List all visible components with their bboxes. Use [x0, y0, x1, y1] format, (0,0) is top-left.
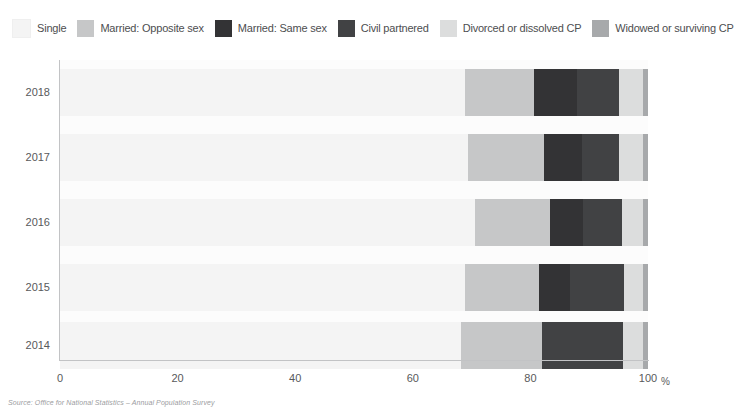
bar-segment — [619, 69, 643, 116]
y-axis-line — [59, 60, 60, 361]
bar-row-2014 — [60, 322, 648, 369]
bar-segment — [475, 199, 550, 246]
chart-legend: Single Married: Opposite sex Married: Sa… — [0, 16, 685, 40]
bar-segment — [534, 69, 577, 116]
legend-label-single: Single — [37, 23, 66, 34]
bar-segment — [60, 264, 465, 311]
legend-swatch-widowed-or-surviving-cp — [592, 20, 609, 37]
x-axis-line — [59, 360, 649, 361]
legend-item-married-same-sex: Married: Same sex — [215, 20, 327, 37]
legend-swatch-married-same-sex — [215, 20, 232, 37]
source-note: Source: Office for National Statistics –… — [8, 399, 215, 406]
y-tick-2016: 2016 — [0, 216, 50, 228]
legend-item-single: Single — [12, 19, 66, 38]
bar-row-2017 — [60, 134, 648, 181]
x-tick-60: 60 — [407, 372, 419, 384]
y-tick-2015: 2015 — [0, 281, 50, 293]
bar-segment — [577, 69, 619, 116]
bar-segment — [60, 322, 461, 369]
bar-segment — [461, 322, 542, 369]
legend-swatch-divorced-or-dissolved-cp — [440, 20, 457, 37]
bar-segment — [465, 69, 534, 116]
legend-label-civil-partnered: Civil partnered — [361, 23, 429, 34]
bar-segment — [544, 134, 582, 181]
bar-segment — [643, 322, 648, 369]
y-tick-2017: 2017 — [0, 151, 50, 163]
x-axis-unit-label: % — [661, 376, 670, 387]
bar-row-2018 — [60, 69, 648, 116]
x-tick-0: 0 — [57, 372, 63, 384]
bar-segment — [624, 264, 643, 311]
x-tick-100: 100 — [639, 372, 657, 384]
bar-segment — [60, 134, 468, 181]
bar-segment — [643, 134, 648, 181]
bar-segment — [539, 264, 570, 311]
bar-segment — [468, 134, 544, 181]
legend-label-divorced-or-dissolved-cp: Divorced or dissolved CP — [463, 23, 582, 34]
legend-item-divorced-or-dissolved-cp: Divorced or dissolved CP — [440, 20, 582, 37]
bar-segment — [550, 199, 583, 246]
legend-swatch-civil-partnered — [338, 20, 355, 37]
legend-label-widowed-or-surviving-cp: Widowed or surviving CP — [615, 23, 733, 34]
y-tick-2014: 2014 — [0, 339, 50, 351]
chart-plot-area — [60, 60, 648, 360]
legend-item-widowed-or-surviving-cp: Widowed or surviving CP — [592, 20, 733, 37]
y-tick-2018: 2018 — [0, 86, 50, 98]
legend-label-married-same-sex: Married: Same sex — [238, 23, 327, 34]
legend-swatch-married-opposite-sex — [77, 20, 94, 37]
bar-segment — [643, 199, 648, 246]
bar-segment — [60, 69, 465, 116]
bar-row-2015 — [60, 264, 648, 311]
bar-segment — [619, 134, 643, 181]
bar-segment — [582, 134, 619, 181]
x-tick-20: 20 — [171, 372, 183, 384]
bar-segment — [570, 264, 624, 311]
legend-swatch-single — [12, 19, 31, 38]
legend-item-civil-partnered: Civil partnered — [338, 20, 429, 37]
bar-segment — [583, 199, 622, 246]
legend-item-married-opposite-sex: Married: Opposite sex — [77, 20, 203, 37]
x-tick-40: 40 — [289, 372, 301, 384]
bar-segment — [542, 322, 623, 369]
bar-segment — [60, 199, 475, 246]
bar-segment — [465, 264, 539, 311]
bar-segment — [643, 69, 648, 116]
bar-row-2016 — [60, 199, 648, 246]
bar-segment — [622, 199, 643, 246]
x-tick-80: 80 — [524, 372, 536, 384]
bar-segment — [623, 322, 643, 369]
bar-segment — [643, 264, 648, 311]
legend-label-married-opposite-sex: Married: Opposite sex — [100, 23, 203, 34]
